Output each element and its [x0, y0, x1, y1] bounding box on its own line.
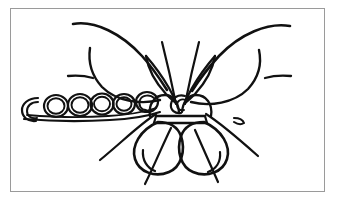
left-lower-wing [134, 122, 183, 174]
right-upper-wing [191, 25, 291, 104]
right-leg [206, 114, 258, 156]
line-drawing [0, 0, 337, 208]
drawing-canvas: Butterfly on branch line drawing [0, 0, 337, 208]
